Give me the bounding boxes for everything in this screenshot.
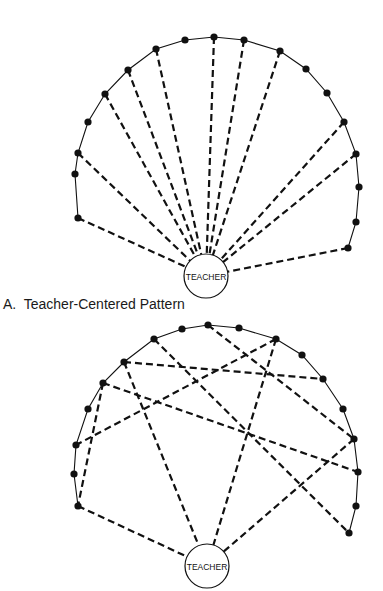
student-seat-dot [74,149,81,156]
student-interaction-pattern-diagram: TEACHER [70,321,361,588]
student-seat-dot [84,118,91,125]
teacher-centered-pattern-diagram: TEACHER [71,33,362,298]
student-seat-dot [340,118,347,125]
interaction-link [221,122,344,260]
interaction-link [76,339,276,445]
interaction-link [156,49,201,255]
interaction-link [224,439,354,552]
interaction-link [124,362,323,379]
student-seat-dot [339,405,346,412]
student-seat-dot [84,405,91,412]
student-seat-dot [99,379,106,386]
student-seat-dot [272,335,279,342]
student-seat-dot [240,36,247,43]
student-seat-dot [178,325,185,332]
student-seat-dot [354,468,361,475]
seating-arc [75,37,359,248]
student-seat-dot [101,90,108,97]
student-seat-dot [235,324,242,331]
seating-arc [74,325,358,533]
student-seat-dot [74,214,81,221]
interaction-link [209,40,244,254]
student-seat-dot [71,170,78,177]
interaction-link [128,70,198,255]
student-seat-dot [276,47,283,54]
student-seat-dot [210,33,217,40]
teacher-label: TEACHER [186,272,227,282]
student-seat-dot [352,502,359,509]
interaction-link [223,154,356,262]
interaction-link [78,153,190,261]
student-seat-dot [350,435,357,442]
student-seat-dot [150,335,157,342]
student-seat-dot [355,183,362,190]
student-seat-dot [181,36,188,43]
interaction-link [78,383,103,506]
student-seat-dot [152,45,159,52]
student-seat-dot [352,218,359,225]
student-seat-dot [302,65,309,72]
student-seat-dot [319,375,326,382]
interaction-link [78,218,186,267]
interaction-link [228,248,348,272]
caption-teacher-centered-pattern: A. Teacher-Centered Pattern [3,296,185,312]
teacher-label: TEACHER [187,562,228,572]
interaction-link [207,37,214,254]
student-seat-dot [70,470,77,477]
student-seat-dot [72,441,79,448]
student-seat-dot [344,244,351,251]
interaction-link [105,94,195,257]
interaction-link [124,362,199,546]
student-seat-dot [74,502,81,509]
student-seat-dot [120,358,127,365]
student-seat-dot [124,66,131,73]
student-seat-dot [352,150,359,157]
student-seat-dot [345,529,352,536]
student-seat-dot [323,89,330,96]
student-seat-dot [298,351,305,358]
interaction-link [103,383,358,472]
student-seat-dot [204,321,211,328]
classroom-interaction-diagrams: TEACHER TEACHER A. Teacher-Centered Patt… [0,0,383,591]
interaction-link [78,506,187,557]
